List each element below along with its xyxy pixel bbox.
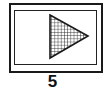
tile-number-label: 5 — [0, 73, 105, 90]
